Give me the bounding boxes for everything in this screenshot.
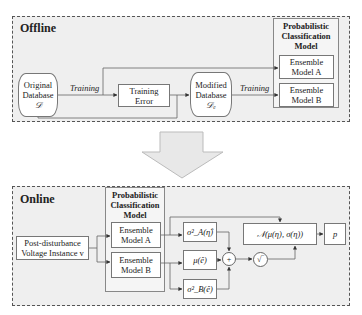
online-ensemble-model-a: Ensemble Model A bbox=[111, 222, 161, 248]
original-database: Original Database 𝒟 bbox=[18, 73, 58, 117]
online-model-group-title: Probabilistic Classification Model bbox=[106, 190, 164, 220]
modified-db-line1: Modified bbox=[195, 80, 227, 90]
offline-ensemble-model-a: Ensemble Model A bbox=[279, 55, 334, 79]
modified-db-line2: Database bbox=[195, 90, 226, 100]
modified-database: Modified Database 𝒟ₑ bbox=[190, 72, 232, 117]
offline-model-group-title: Probabilistic Classification Model bbox=[274, 21, 338, 51]
sum-node: + bbox=[222, 252, 236, 266]
training-label-1: Training bbox=[70, 83, 99, 93]
training-label-2: Training bbox=[240, 83, 269, 93]
voltage-instance-input: Post-disturbance Voltage Instance v bbox=[16, 236, 89, 260]
original-db-line1: Original bbox=[24, 80, 52, 90]
original-db-line2: Database bbox=[22, 90, 53, 100]
output-p-box: p bbox=[324, 223, 346, 245]
mu-e-box: μ(ê) bbox=[183, 250, 217, 270]
offline-ensemble-model-b: Ensemble Model B bbox=[279, 83, 334, 107]
online-title: Online bbox=[20, 192, 55, 207]
modified-db-symbol: 𝒟ₑ bbox=[206, 100, 215, 110]
training-error-box: Training Error bbox=[118, 84, 170, 107]
online-ensemble-model-b: Ensemble Model B bbox=[111, 252, 161, 278]
offline-title: Offline bbox=[20, 21, 56, 36]
down-arrow-icon bbox=[135, 130, 230, 180]
training-error-line1: Training bbox=[130, 86, 159, 96]
normal-distribution-box: 𝒩(μ(η), σ(η)) bbox=[243, 223, 317, 245]
sqrt-node: √‾ bbox=[253, 252, 268, 267]
sigma-b-box: σ²_B(ê) bbox=[183, 279, 217, 299]
sigma-a-box: σ²_A(η̂) bbox=[183, 222, 217, 242]
training-error-line2: Error bbox=[135, 96, 153, 106]
original-db-symbol: 𝒟 bbox=[35, 100, 42, 110]
